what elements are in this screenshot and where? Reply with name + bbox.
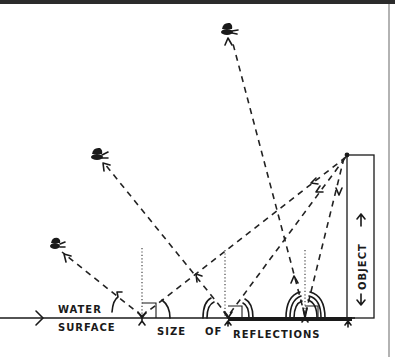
reflection-arc-icon xyxy=(207,302,214,318)
reflection-arc-icon xyxy=(162,300,170,318)
reflection-small xyxy=(112,292,170,325)
object-down-arrow-icon xyxy=(357,294,365,305)
reflection-medium xyxy=(203,298,253,326)
surface-label: SURFACE xyxy=(58,322,116,333)
object-label: OBJECT xyxy=(357,243,368,290)
water-surface xyxy=(0,311,355,325)
reflection-arc-icon xyxy=(243,303,249,318)
eye-icon xyxy=(50,238,65,249)
reflection-diagram: OBJECT xyxy=(0,0,395,357)
eye-icon xyxy=(91,148,108,160)
size-label: SIZE xyxy=(157,326,186,337)
water-label: WATER xyxy=(58,304,102,315)
arrow-icon xyxy=(291,276,298,283)
object-up-arrow-icon xyxy=(357,214,365,226)
incident-rays xyxy=(142,157,346,316)
reflections-label: REFLECTIONS xyxy=(233,329,321,340)
eye-icon xyxy=(221,23,238,35)
arrow-icon xyxy=(345,321,351,327)
reflected-rays xyxy=(62,38,305,316)
of-label: OF xyxy=(205,326,222,337)
top-frame-band xyxy=(0,0,395,4)
arrow-icon xyxy=(336,188,342,195)
arrow-icon xyxy=(225,38,232,45)
reflection-arc-icon xyxy=(112,292,122,312)
object: OBJECT xyxy=(345,153,374,318)
